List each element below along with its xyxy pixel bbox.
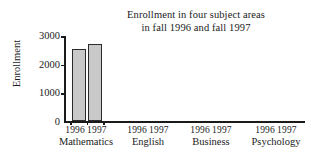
x-group-business: 19961997 Business (181, 124, 241, 148)
y-tick-label-1000: 1000 (30, 88, 60, 98)
bar-chart-figure: Enrollment in four subject areas in fall… (0, 0, 320, 165)
chart-title: Enrollment in four subject areas in fall… (96, 8, 296, 34)
x-year-label-english-1996: 1996 (126, 124, 148, 136)
x-group-years-english: 19961997 (118, 124, 178, 136)
bar-mathematics-1997[interactable] (88, 44, 102, 121)
y-tick-mark-2000 (61, 65, 64, 67)
x-group-years-business: 19961997 (181, 124, 241, 136)
x-year-label-mathematics-1996: 1996 (64, 124, 86, 136)
y-axis-label: Enrollment (11, 24, 22, 104)
x-axis-line (64, 121, 305, 123)
x-group-english: 19961997 English (118, 124, 178, 148)
y-tick-mark-3000 (61, 36, 64, 38)
x-year-label-business-1997: 1997 (211, 124, 233, 136)
x-year-label-psychology-1996: 1996 (254, 124, 276, 136)
x-year-label-business-1996: 1996 (189, 124, 211, 136)
x-year-label-english-1997: 1997 (148, 124, 170, 136)
chart-title-line-2: in fall 1996 and fall 1997 (96, 21, 296, 34)
y-tick-label-3000: 3000 (30, 31, 60, 41)
plot-area: 3000 2000 1000 0 19961997 Mathematics 19… (64, 36, 305, 122)
x-group-years-psychology: 19961997 (244, 124, 308, 136)
x-year-label-mathematics-1997: 1997 (86, 124, 108, 136)
x-group-mathematics: 19961997 Mathematics (56, 124, 116, 148)
x-category-label-mathematics: Mathematics (56, 136, 116, 148)
x-year-label-psychology-1997: 1997 (276, 124, 298, 136)
y-tick-label-2000: 2000 (30, 60, 60, 70)
y-tick-mark-1000 (61, 93, 64, 95)
bar-mathematics-1996[interactable] (72, 49, 86, 121)
x-category-label-business: Business (181, 136, 241, 148)
x-group-years-mathematics: 19961997 (56, 124, 116, 136)
chart-title-line-1: Enrollment in four subject areas (96, 8, 296, 21)
x-category-label-english: English (118, 136, 178, 148)
y-axis-line (64, 36, 66, 122)
x-category-label-psychology: Psychology (244, 136, 308, 148)
x-group-psychology: 19961997 Psychology (244, 124, 308, 148)
